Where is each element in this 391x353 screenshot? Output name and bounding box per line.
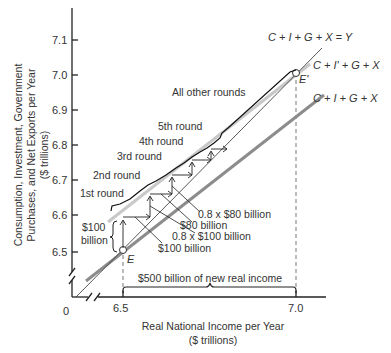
label-all-other-rounds: All other rounds — [172, 86, 246, 98]
label-round3: 3rd round — [117, 150, 162, 162]
label-point8-100: 0.8 x $100 billion — [172, 230, 251, 242]
x-axis-label-line1: Real National Income per Year — [142, 320, 285, 332]
y-axis-label-line3: ($ trillions) — [38, 131, 50, 179]
label-round2: 2nd round — [93, 169, 140, 181]
y-axis-label-line2: Purchases, and Net Exports per Year — [25, 68, 37, 241]
brace-500-billion — [123, 283, 296, 293]
y-tick-7.1: 7.1 — [52, 34, 67, 46]
y-tick-6.5: 6.5 — [52, 246, 67, 258]
label-80-billion: $80 billion — [180, 219, 227, 231]
label-round4: 4th round — [139, 135, 184, 147]
label-round1: 1st round — [80, 187, 124, 199]
x-axis-label-line2: ($ trillions) — [189, 334, 237, 346]
label-round5: 5th round — [158, 120, 203, 132]
y-tick-6.7: 6.7 — [52, 174, 67, 186]
y-tick-6.8: 6.8 — [52, 139, 67, 151]
y-tick-6.9: 6.9 — [52, 104, 67, 116]
point-e-prime-label: E' — [299, 73, 309, 85]
point-e-label: E — [127, 253, 135, 265]
x-tick-6.5: 6.5 — [113, 302, 128, 314]
y-axis — [69, 8, 78, 297]
y-tick-6.6: 6.6 — [52, 209, 67, 221]
label-100-billion-step: $100 billion — [158, 242, 211, 254]
label-new-income: $500 billion of new real income — [138, 272, 282, 284]
multiplier-diagram: Consumption, Investment, Government Purc… — [0, 0, 391, 353]
label-100-line2: billion — [81, 234, 108, 246]
label-point8-80: 0.8 x $80 billion — [198, 208, 271, 220]
x-tick-7.0: 7.0 — [288, 302, 303, 314]
y-tick-7.0: 7.0 — [52, 69, 67, 81]
label-100-line1: $100 — [82, 221, 106, 233]
label-new-ae: C + I' + G + X — [313, 59, 380, 71]
label-old-ae: C + I + G + X — [313, 92, 378, 104]
y-axis-label-line1: Consumption, Investment, Government — [12, 64, 24, 247]
label-y45: C + I + G + X = Y — [268, 31, 353, 43]
brace-100-billion — [110, 221, 117, 252]
origin-label: 0 — [63, 305, 69, 317]
x-axis — [72, 291, 326, 301]
